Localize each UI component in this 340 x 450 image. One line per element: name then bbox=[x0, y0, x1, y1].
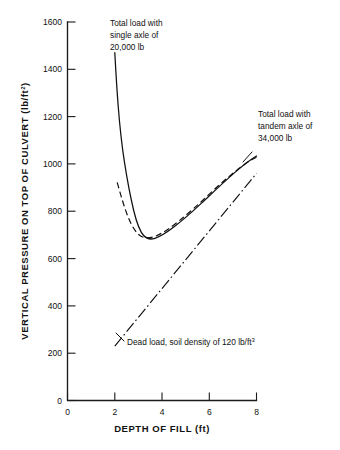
y-axis-title-tail: ) bbox=[19, 82, 30, 86]
x-axis-ticks bbox=[68, 393, 257, 401]
x-tick-label-6: 6 bbox=[207, 407, 212, 417]
y-axis-ticks bbox=[68, 22, 76, 401]
y-tick-label-1400: 1400 bbox=[43, 64, 62, 74]
chart-figure: 0 200 400 600 800 1000 1200 1400 1600 0 … bbox=[0, 0, 340, 450]
y-axis-title: VERTICAL PRESSURE ON TOP OF CULVERT (lb/… bbox=[19, 82, 30, 340]
series-dead-load-line bbox=[115, 173, 257, 346]
annotation-single-axle: Total load with single axle of 20,000 lb bbox=[110, 18, 163, 52]
y-axis-tick-labels: 0 200 400 600 800 1000 1200 1400 1600 bbox=[43, 17, 62, 406]
annotation-tandem-axle-line-2: tandem axle of bbox=[258, 121, 313, 131]
x-tick-label-0: 0 bbox=[65, 407, 70, 417]
x-axis-tick-labels: 0 2 4 6 8 bbox=[65, 407, 259, 417]
annotation-dead-load-text: Dead load, soil density of 120 lb/ft3 bbox=[127, 337, 256, 347]
y-tick-label-200: 200 bbox=[48, 348, 62, 358]
annotation-single-axle-line-1: Total load with bbox=[110, 18, 163, 28]
annotation-tandem-axle-line-3: 34,000 lb bbox=[258, 133, 293, 143]
y-tick-label-0: 0 bbox=[57, 396, 62, 406]
annotation-dead-load: Dead load, soil density of 120 lb/ft3 bbox=[116, 333, 256, 347]
annotation-dead-load-superscript: 3 bbox=[252, 337, 256, 343]
x-axis-title: DEPTH OF FILL (ft) bbox=[114, 423, 210, 434]
x-tick-label-8: 8 bbox=[254, 407, 259, 417]
pressure-vs-depth-chart: 0 200 400 600 800 1000 1200 1400 1600 0 … bbox=[0, 0, 340, 450]
y-tick-label-600: 600 bbox=[48, 254, 62, 264]
annotation-single-axle-line-2: single axle of bbox=[110, 30, 159, 40]
annotation-single-axle-line-3: 20,000 lb bbox=[110, 42, 145, 52]
y-tick-label-800: 800 bbox=[48, 206, 62, 216]
y-tick-label-400: 400 bbox=[48, 301, 62, 311]
series-single-axle-curve bbox=[115, 53, 257, 239]
x-tick-label-4: 4 bbox=[160, 407, 165, 417]
y-tick-label-1200: 1200 bbox=[43, 112, 62, 122]
annotation-tandem-axle: Total load with tandem axle of 34,000 lb bbox=[243, 109, 313, 162]
annotation-dead-load-main: Dead load, soil density of 120 lb/ft bbox=[127, 337, 252, 347]
annotation-tandem-axle-line-1: Total load with bbox=[258, 109, 311, 119]
y-tick-label-1000: 1000 bbox=[43, 159, 62, 169]
y-tick-label-1600: 1600 bbox=[43, 17, 62, 27]
y-axis-title-group: VERTICAL PRESSURE ON TOP OF CULVERT (lb/… bbox=[19, 82, 30, 340]
y-axis-title-main: VERTICAL PRESSURE ON TOP OF CULVERT (lb/… bbox=[19, 90, 30, 340]
x-tick-label-2: 2 bbox=[112, 407, 117, 417]
